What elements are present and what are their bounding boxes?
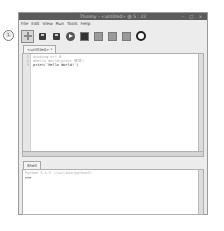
menu-run[interactable]: Run — [56, 20, 64, 27]
toolbar — [19, 27, 207, 45]
step-out-button[interactable] — [121, 31, 132, 42]
step-over-icon — [94, 32, 103, 41]
debug-button[interactable] — [79, 31, 90, 42]
open-file-button[interactable] — [37, 31, 48, 42]
shell-vertical-scrollbar[interactable] — [198, 170, 203, 214]
menu-help[interactable]: Help — [81, 20, 91, 27]
save-disk-icon — [53, 33, 60, 40]
menu-edit[interactable]: Edit — [31, 20, 39, 27]
shell-prompt: >>> — [25, 176, 196, 181]
tab-untitled[interactable]: <untitled> * — [23, 45, 56, 53]
plus-icon — [24, 32, 32, 40]
line-number-gutter: 1 2 3 — [23, 54, 31, 151]
open-disk-icon — [39, 33, 46, 40]
run-play-icon — [66, 32, 75, 41]
new-file-button[interactable] — [21, 30, 34, 43]
menu-bar: File Edit View Run Tools Help — [19, 20, 207, 27]
menu-tools[interactable]: Tools — [67, 20, 78, 27]
code-line: print('Hello World!') — [33, 63, 198, 67]
window-title: Thonny - <untitled> @ 5 : 22 — [19, 13, 207, 20]
code-editor[interactable]: 1 2 3 #coding:utf-8 #Hello World(print 練… — [22, 53, 204, 152]
step-annotation-marker: ① — [3, 30, 14, 41]
code-text[interactable]: #coding:utf-8 #Hello World(print 練習) pri… — [31, 54, 198, 151]
step-out-icon — [122, 32, 131, 41]
maximize-button[interactable]: □ — [190, 14, 196, 19]
editor-vertical-scrollbar[interactable] — [198, 54, 203, 151]
shell-tab-row: Shell — [19, 157, 207, 169]
step-into-button[interactable] — [107, 31, 118, 42]
title-bar[interactable]: Thonny - <untitled> @ 5 : 22 ‒ □ × — [19, 13, 207, 20]
close-button[interactable]: × — [199, 14, 204, 19]
run-button[interactable] — [65, 31, 76, 42]
step-into-icon — [108, 32, 117, 41]
minimize-button[interactable]: ‒ — [182, 14, 187, 19]
line-number: 3 — [23, 63, 29, 67]
step-over-button[interactable] — [93, 31, 104, 42]
debug-icon — [80, 32, 89, 41]
shell-output[interactable]: Python 3.5.3 (/usr/bin/python3) >>> — [23, 170, 198, 214]
thonny-window: Thonny - <untitled> @ 5 : 22 ‒ □ × File … — [18, 12, 208, 215]
menu-file[interactable]: File — [21, 20, 28, 27]
editor-tab-row: <untitled> * — [19, 45, 207, 53]
save-file-button[interactable] — [51, 31, 62, 42]
tab-shell[interactable]: Shell — [23, 161, 41, 169]
stop-icon — [136, 31, 146, 41]
window-controls: ‒ □ × — [182, 13, 204, 20]
stop-button[interactable] — [135, 31, 146, 42]
shell-panel[interactable]: Python 3.5.3 (/usr/bin/python3) >>> — [22, 169, 204, 215]
menu-view[interactable]: View — [43, 20, 53, 27]
